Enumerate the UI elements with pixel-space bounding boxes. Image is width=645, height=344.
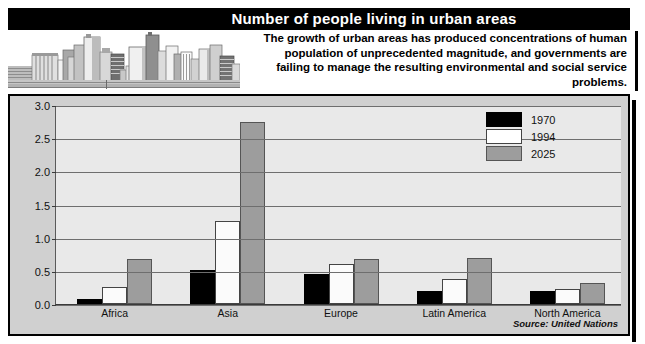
x-axis-label-asia: Asia xyxy=(218,307,238,319)
bar-latin-america-1970 xyxy=(417,291,442,304)
y-axis-tick xyxy=(52,139,56,140)
legend-item[interactable]: 1994 xyxy=(486,129,555,144)
y-axis-tick-label: 3.0 xyxy=(35,100,50,112)
legend-label-2025: 2025 xyxy=(531,148,555,160)
y-axis-tick-label: 2.0 xyxy=(35,166,50,178)
bar-africa-2025 xyxy=(127,259,152,304)
intro-paragraph: The growth of urban areas has produced c… xyxy=(248,31,638,91)
city-skyline-icon xyxy=(8,30,240,91)
x-axis-label-africa: Africa xyxy=(101,307,128,319)
legend-swatch-1994 xyxy=(486,129,522,144)
y-axis-tick xyxy=(52,272,56,273)
y-axis-tick-label: 1.5 xyxy=(35,200,50,212)
panel-shadow xyxy=(632,100,636,342)
bar-latin-america-2025 xyxy=(467,258,492,304)
bar-latin-america-1994 xyxy=(442,279,467,304)
bar-europe-1970 xyxy=(304,274,329,305)
legend-swatch-1970 xyxy=(486,112,522,127)
bar-north-america-1994 xyxy=(555,289,580,304)
y-axis-tick-label: 0.0 xyxy=(35,299,50,311)
y-axis-tick-label: 1.0 xyxy=(35,233,50,245)
legend-swatch-2025 xyxy=(486,146,522,161)
header: Number of people living in urban areas xyxy=(8,8,630,91)
y-axis-tick-label: 2.5 xyxy=(35,133,50,145)
gridline xyxy=(56,206,621,207)
y-axis-tick xyxy=(52,172,56,173)
gridline xyxy=(56,272,621,273)
x-axis-label-latin-america: Latin America xyxy=(422,307,486,319)
bar-north-america-1970 xyxy=(530,291,555,304)
x-axis-label-europe: Europe xyxy=(324,307,358,319)
bar-europe-2025 xyxy=(354,259,379,304)
y-axis-tick xyxy=(52,206,56,207)
title-bar: Number of people living in urban areas xyxy=(8,8,630,30)
legend-item[interactable]: 1970 xyxy=(486,112,555,127)
bar-asia-1970 xyxy=(190,270,215,304)
y-axis-tick-label: 0.5 xyxy=(35,266,50,278)
infographic-page: Number of people living in urban areas xyxy=(0,0,645,344)
bar-africa-1970 xyxy=(77,299,102,304)
bar-asia-1994 xyxy=(215,221,240,304)
bar-north-america-2025 xyxy=(580,283,605,304)
page-title: Number of people living in urban areas xyxy=(8,8,630,30)
legend: 1970 1994 2025 xyxy=(486,112,555,161)
y-axis-tick xyxy=(52,106,56,107)
bar-asia-2025 xyxy=(240,122,265,304)
legend-label-1970: 1970 xyxy=(531,114,555,126)
legend-label-1994: 1994 xyxy=(531,131,555,143)
bar-africa-1994 xyxy=(102,287,127,304)
gridline xyxy=(56,305,621,306)
gridline xyxy=(56,172,621,173)
y-axis-tick xyxy=(52,305,56,306)
chart-panel: 0.00.51.01.52.02.53.0AfricaAsiaEuropeLat… xyxy=(8,94,630,336)
gridline xyxy=(56,239,621,240)
gridline xyxy=(56,106,621,107)
bar-europe-1994 xyxy=(329,264,354,304)
y-axis-tick xyxy=(52,239,56,240)
legend-item[interactable]: 2025 xyxy=(486,146,555,161)
source-note: Source: United Nations xyxy=(513,318,618,329)
